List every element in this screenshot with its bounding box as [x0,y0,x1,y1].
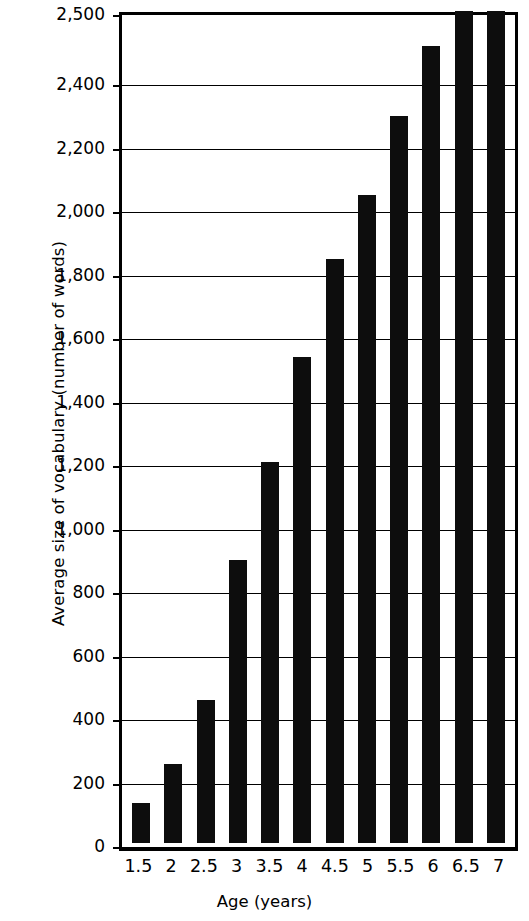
y-axis-tick-label: 1,000 [56,521,105,538]
y-axis-tick-label: 1,400 [56,394,105,411]
bar-cell [254,18,286,843]
y-axis-tick-label: 2,400 [56,76,105,93]
x-axis-tick-label: 3.5 [253,857,286,885]
bar [326,259,344,843]
bar-series [125,18,512,843]
y-axis-tick [113,530,122,532]
bar-cell [415,18,447,843]
bar [197,700,215,843]
x-axis-tick-label: 3 [220,857,253,885]
bar-cell [157,18,189,843]
y-axis-tick-label: 2,000 [56,203,105,220]
x-axis-tick-label: 2 [155,857,188,885]
y-axis-tick-labels: 02004006008001,0001,2001,4001,6001,8002,… [0,0,119,921]
bar [261,462,279,843]
bar-cell [448,18,480,843]
y-axis-tick [113,403,122,405]
bar [358,195,376,843]
y-axis-tick [113,339,122,341]
y-axis-tick [113,149,122,151]
y-axis-tick [113,15,122,17]
bar-cell [286,18,318,843]
x-axis-tick-label: 4 [286,857,319,885]
bar [293,357,311,843]
y-axis-tick-label: 200 [73,775,105,792]
y-axis-tick [113,593,122,595]
y-axis-tick-label: 2,200 [56,140,105,157]
x-axis-tick-label: 4.5 [319,857,352,885]
bar [487,11,505,843]
y-axis-tick-label: 800 [73,584,105,601]
y-axis-tick [113,466,122,468]
y-axis-tick [113,212,122,214]
bar-cell [351,18,383,843]
y-axis-tick-label: 600 [73,648,105,665]
y-axis-tick-label: 400 [73,711,105,728]
bar-cell [190,18,222,843]
y-axis-tick [113,85,122,87]
y-axis-tick-label: 0 [94,838,105,855]
x-axis-tick-label: 1.5 [122,857,155,885]
bar-cell [125,18,157,843]
bar-cell [480,18,512,843]
x-axis-tick-label: 6 [417,857,450,885]
y-axis-tick [113,784,122,786]
y-axis-tick-label: 1,800 [56,267,105,284]
x-axis-title: Age (years) [0,892,529,911]
bar [455,11,473,843]
y-axis-tick [113,276,122,278]
y-axis-tick [113,847,122,849]
bar-cell [319,18,351,843]
y-axis-tick-label: 1,600 [56,330,105,347]
bar [390,116,408,843]
plot-area [119,12,518,851]
x-axis-tick-label: 7 [482,857,515,885]
y-axis-tick-label: 2,500 [56,6,105,23]
x-axis-tick-label: 2.5 [188,857,221,885]
x-axis-tick-label: 6.5 [450,857,483,885]
bar-cell [222,18,254,843]
y-axis-tick [113,720,122,722]
bar [229,560,247,843]
bar-cell [383,18,415,843]
x-axis-tick-label: 5.5 [384,857,417,885]
bar [422,46,440,843]
x-axis-tick-label: 5 [351,857,384,885]
x-axis-tick-labels: 1.522.533.544.555.566.57 [122,857,515,885]
y-axis-tick-label: 1,200 [56,457,105,474]
vocabulary-growth-bar-chart: Average size of vocabulary (number of wo… [0,0,529,921]
bar [164,764,182,843]
bar [132,803,150,843]
y-axis-tick [113,657,122,659]
